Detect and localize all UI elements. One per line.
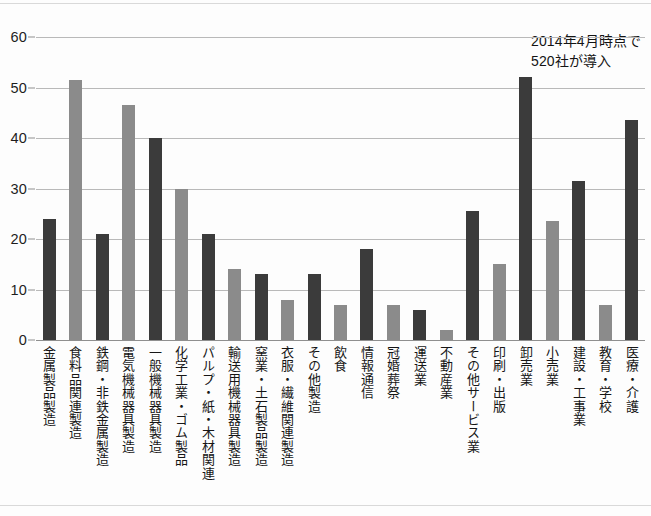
page-bottom-border bbox=[0, 505, 651, 506]
x-axis-label: 小売業 bbox=[545, 346, 558, 386]
bar bbox=[546, 221, 559, 340]
x-axis-label: 一般機械器具製造 bbox=[148, 346, 161, 453]
bar bbox=[308, 274, 321, 340]
bar bbox=[360, 249, 373, 340]
bar bbox=[202, 234, 215, 340]
bar bbox=[228, 269, 241, 340]
y-axis-tick-label: 0 bbox=[19, 332, 27, 348]
y-axis-tick bbox=[28, 340, 35, 341]
x-axis-label: 建設・工事業 bbox=[572, 346, 585, 426]
x-axis-label: その他サービス業 bbox=[466, 346, 479, 453]
y-axis-tick bbox=[28, 37, 35, 38]
x-axis-label: 金属製品製造 bbox=[42, 346, 55, 426]
y-axis-tick-label: 40 bbox=[10, 130, 27, 146]
bar bbox=[122, 105, 135, 340]
y-axis-tick bbox=[28, 188, 35, 189]
y-axis-tick-label: 60 bbox=[10, 29, 27, 45]
y-axis-tick bbox=[28, 87, 35, 88]
x-axis-label: 医療・介護 bbox=[625, 346, 638, 413]
y-axis-tick-label: 20 bbox=[10, 231, 27, 247]
bar bbox=[96, 234, 109, 340]
x-axis-label: 飲食 bbox=[334, 346, 347, 373]
bar bbox=[281, 300, 294, 340]
bar bbox=[466, 211, 479, 340]
page-top-border bbox=[0, 3, 651, 4]
x-axis-label: その他製造 bbox=[307, 346, 320, 413]
y-axis-tick-label: 50 bbox=[10, 80, 27, 96]
plot-area: 0102030405060 bbox=[36, 37, 645, 341]
bar bbox=[413, 310, 426, 340]
x-axis-label: 冠婚葬祭 bbox=[386, 346, 399, 400]
bar bbox=[625, 120, 638, 340]
x-axis-label: 運送業 bbox=[413, 346, 426, 386]
x-axis-label: 鉄鋼・非鉄金属製造 bbox=[95, 346, 108, 467]
bar bbox=[387, 305, 400, 340]
x-axis-labels: 金属製品製造食料品関連製造鉄鋼・非鉄金属製造電気機械器具製造一般機械器具製造化学… bbox=[36, 346, 645, 496]
bar-series bbox=[36, 37, 645, 341]
x-axis-label: 窯業・土石製品製造 bbox=[254, 346, 267, 467]
x-axis-label: 化学工業・ゴム製品 bbox=[175, 346, 188, 467]
x-axis-label: 情報通信 bbox=[360, 346, 373, 400]
x-axis-label: パルプ・紙・木材関連 bbox=[201, 346, 214, 480]
bar bbox=[255, 274, 268, 340]
bar bbox=[69, 80, 82, 340]
x-axis-label: 食料品関連製造 bbox=[69, 346, 82, 440]
x-axis-label: 不動産業 bbox=[439, 346, 452, 400]
y-axis-tick bbox=[28, 289, 35, 290]
bar bbox=[599, 305, 612, 340]
x-axis-label: 印刷・出版 bbox=[492, 346, 505, 413]
bar bbox=[572, 181, 585, 340]
chart-page: 2014年4月時点で 520社が導入 0102030405060 金属製品製造食… bbox=[0, 0, 651, 516]
bar bbox=[334, 305, 347, 340]
bar bbox=[175, 189, 188, 341]
bar bbox=[493, 264, 506, 340]
y-axis-tick-label: 30 bbox=[10, 181, 27, 197]
x-axis-label: 輸送用機械器具製造 bbox=[228, 346, 241, 467]
bar bbox=[519, 77, 532, 340]
x-axis-label: 卸売業 bbox=[519, 346, 532, 386]
y-axis-tick-label: 10 bbox=[10, 282, 27, 298]
bar bbox=[43, 219, 56, 340]
x-axis-label: 教育・学校 bbox=[598, 346, 611, 413]
x-axis-label: 電気機械器具製造 bbox=[122, 346, 135, 453]
x-axis-label: 衣服・繊維関連製造 bbox=[281, 346, 294, 467]
y-axis-tick bbox=[28, 239, 35, 240]
bar bbox=[440, 330, 453, 340]
y-axis-tick bbox=[28, 138, 35, 139]
bar bbox=[149, 138, 162, 340]
